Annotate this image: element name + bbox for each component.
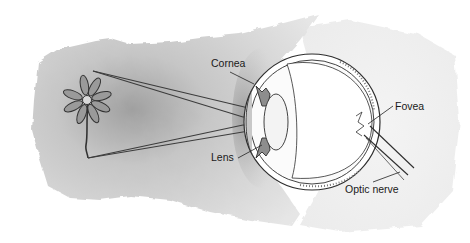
label-cornea: Cornea (211, 58, 245, 69)
label-lens: Lens (211, 152, 234, 163)
eye-diagram: Cornea Lens Fovea Optic nerve (0, 0, 470, 243)
label-fovea: Fovea (395, 101, 424, 112)
label-optic-nerve: Optic nerve (345, 184, 399, 195)
diagram-canvas (0, 0, 470, 243)
